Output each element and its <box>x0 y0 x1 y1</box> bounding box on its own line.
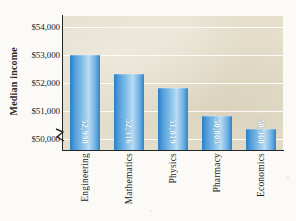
y-axis-tick-label: $54,000 <box>31 22 60 32</box>
bar-value-label: 52,998 <box>80 119 90 144</box>
x-axis-tick-label-mathematics: Mathematics <box>124 153 134 206</box>
x-axis-tick-label-text: Engineering <box>80 153 90 202</box>
x-axis-tick-label-engineering: Engineering <box>80 153 90 204</box>
x-axis-tick-label-text: Mathematics <box>124 153 134 204</box>
y-axis-tick-label: $51,000 <box>31 106 60 116</box>
bar-economics: 50,360 <box>246 129 276 150</box>
bar-value-label: 50,805 <box>212 119 222 144</box>
bar-value-label: 51,819 <box>168 119 178 144</box>
x-axis-tick-label-text: Pharmacy <box>212 153 222 193</box>
x-axis-tick-label-pharmacy: Pharmacy <box>212 153 222 195</box>
bar-mathematics: 52,316 <box>114 74 144 150</box>
scan-speckle <box>286 176 289 179</box>
bar-pharmacy: 50,805 <box>202 116 232 150</box>
x-axis-tick-label-economics: Economics <box>256 153 266 199</box>
y-axis-tick-label: $52,000 <box>31 78 60 88</box>
bar-chart-figure: Median income $50,000$51,000$52,000$53,0… <box>0 0 296 221</box>
x-axis-line <box>62 150 284 151</box>
plot-area: 52,99852,31651,81950,80550,360 <box>63 16 283 150</box>
y-axis-title-text: Median income <box>8 47 19 115</box>
y-axis-tick-label: $53,000 <box>31 50 60 60</box>
axis-break-icon <box>55 126 71 144</box>
bar-physics: 51,819 <box>158 88 188 150</box>
x-axis-tick-label-physics: Physics <box>168 153 178 185</box>
bar-value-label: 50,360 <box>256 119 266 144</box>
bar-engineering: 52,998 <box>70 55 100 150</box>
x-axis-tick-label-text: Economics <box>256 153 266 197</box>
bar-value-label: 52,316 <box>124 119 134 144</box>
x-axis-category-labels: EngineeringMathematicsPhysicsPharmacyEco… <box>63 153 283 219</box>
gridline <box>63 27 283 28</box>
x-axis-tick-label-text: Physics <box>168 153 178 183</box>
